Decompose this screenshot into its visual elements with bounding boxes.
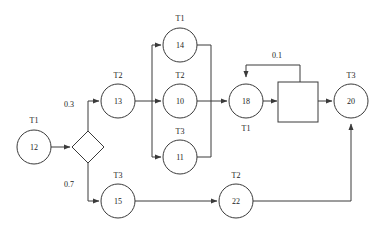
decision-diamond-shape[interactable] [72, 131, 104, 163]
node-10-id: 10 [176, 97, 184, 106]
node-11[interactable]: 11 T3 [163, 127, 197, 174]
node-20-type-label: T3 [347, 71, 356, 80]
node-12[interactable]: 12 T1 [17, 116, 51, 164]
edge-decision-to-13 [88, 101, 99, 131]
decision-diamond[interactable] [72, 131, 104, 163]
node-14-id: 14 [176, 41, 184, 50]
node-22-type-label: T2 [232, 171, 241, 180]
node-15-type-label: T3 [114, 171, 123, 180]
edge-label-0-7: 0.7 [64, 180, 74, 189]
process-square-shape[interactable] [278, 82, 318, 122]
node-22-id: 22 [232, 197, 240, 206]
node-11-id: 11 [176, 153, 184, 162]
flow-diagram-svg: 12 T1 13 T2 14 T1 10 [0, 0, 387, 231]
node-14-type-label: T1 [176, 14, 185, 23]
node-13[interactable]: 13 T2 [101, 71, 135, 118]
node-20-id: 20 [347, 97, 355, 106]
edge-square-to-18-feedback [246, 65, 300, 82]
edge-decision-to-15 [88, 163, 99, 201]
node-18[interactable]: 18 T1 [229, 84, 263, 133]
node-20[interactable]: 20 T3 [334, 71, 368, 118]
node-18-id: 18 [242, 97, 250, 106]
process-square[interactable] [278, 82, 318, 122]
edge-label-0-1: 0.1 [272, 51, 282, 60]
edge-layer [51, 45, 351, 201]
node-12-id: 12 [30, 143, 38, 152]
node-11-type-label: T3 [176, 127, 185, 136]
node-15-id: 15 [114, 197, 122, 206]
node-10[interactable]: 10 T2 [163, 71, 197, 118]
node-12-type-label: T1 [30, 116, 39, 125]
node-13-type-label: T2 [114, 71, 123, 80]
node-13-id: 13 [114, 97, 122, 106]
node-14[interactable]: 14 T1 [163, 14, 197, 62]
edge-label-0-3: 0.3 [64, 100, 74, 109]
node-22[interactable]: 22 T2 [219, 171, 253, 218]
node-10-type-label: T2 [176, 71, 185, 80]
node-15[interactable]: 15 T3 [101, 171, 135, 218]
edge-22-to-20 [253, 124, 351, 201]
node-18-type-label: T1 [242, 124, 251, 133]
flow-diagram-canvas: 12 T1 13 T2 14 T1 10 [0, 0, 387, 231]
